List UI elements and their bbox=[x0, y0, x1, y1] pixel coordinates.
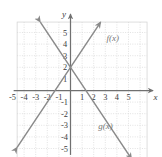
function-label-fx: f(x) bbox=[106, 33, 119, 43]
x-axis-label: x bbox=[153, 92, 158, 102]
x-tick-label: -3 bbox=[32, 93, 39, 102]
graph-figure: xy-5-4-3-2-11234554321-1-2-3-4-5f(x)g(x) bbox=[0, 0, 162, 157]
y-tick-label: -5 bbox=[61, 145, 68, 154]
x-tick-label: -4 bbox=[21, 93, 29, 102]
y-tick-label: -3 bbox=[61, 121, 68, 130]
coordinate-plane-svg: xy-5-4-3-2-11234554321-1-2-3-4-5f(x)g(x) bbox=[0, 0, 162, 157]
y-tick-label: -1 bbox=[61, 98, 68, 107]
function-label-gx: g(x) bbox=[98, 121, 113, 131]
grid-lines bbox=[17, 22, 147, 157]
x-tick-label: 5 bbox=[126, 93, 130, 102]
y-tick-label: 2 bbox=[63, 63, 67, 72]
y-tick-label: -2 bbox=[61, 110, 68, 119]
y-axis-label: y bbox=[61, 9, 66, 19]
x-tick-label: 4 bbox=[115, 93, 120, 102]
x-tick-label: 1 bbox=[80, 93, 84, 102]
y-tick-label: 5 bbox=[63, 29, 67, 38]
x-tick-label: 3 bbox=[103, 93, 107, 102]
y-tick-label: 4 bbox=[63, 40, 68, 49]
y-tick-label: -4 bbox=[61, 133, 69, 142]
x-tick-label: -5 bbox=[9, 93, 16, 102]
